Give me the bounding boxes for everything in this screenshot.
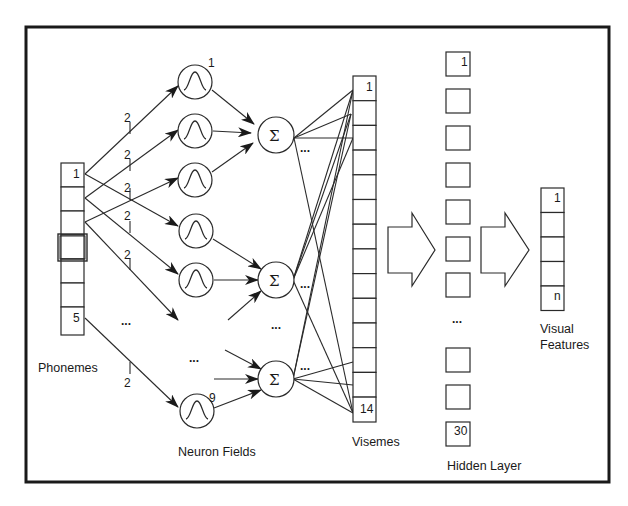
summation-node: Σ	[258, 262, 294, 298]
phoneme-last-index: 5	[73, 311, 80, 325]
weight-label: 2	[124, 111, 131, 125]
weight-label: 2	[124, 181, 131, 195]
visemes-label: Visemes	[352, 435, 400, 449]
neuron-fields-label: Neuron Fields	[178, 445, 256, 459]
visual-features-column: 1 n	[541, 188, 564, 311]
viseme-first-index: 1	[366, 80, 373, 94]
network-diagram: 2 2 2 2 2 2	[0, 0, 628, 506]
phoneme-first-index: 1	[73, 167, 80, 181]
ellipsis: ...	[300, 141, 310, 155]
summation-node: Σ	[258, 361, 294, 397]
weight-label: 2	[124, 376, 131, 390]
gaussian-neuron	[178, 114, 212, 148]
hidden-last-index: 30	[454, 424, 468, 438]
gaussian-neuron	[179, 214, 213, 248]
phoneme-neuron-connections	[85, 86, 178, 407]
weight-label: 2	[124, 209, 131, 223]
hidden-layer-column: 1 30 ...	[446, 52, 470, 446]
viseme-column: 1 14	[353, 76, 376, 422]
neuron-last-index: 9	[209, 391, 216, 405]
neuron-sum-connections	[212, 90, 261, 408]
summation-node: Σ	[258, 117, 294, 153]
ellipsis: ...	[452, 312, 462, 326]
svg-text:Σ: Σ	[269, 371, 280, 389]
ellipsis: ...	[121, 314, 131, 328]
visual-features-label-line2: Features	[540, 338, 589, 352]
ellipsis: ...	[300, 359, 310, 373]
ellipsis: ...	[300, 277, 310, 291]
flow-arrow-icon	[481, 213, 529, 286]
viseme-last-index: 14	[360, 402, 374, 416]
svg-text:Σ: Σ	[269, 272, 280, 290]
flow-arrow-icon	[388, 213, 435, 286]
phonemes-label: Phonemes	[38, 361, 98, 375]
gaussian-neuron	[179, 263, 213, 297]
gaussian-neuron	[178, 65, 212, 99]
ellipsis: ...	[271, 318, 281, 332]
weight-label: 2	[124, 248, 131, 262]
visual-feature-last-index: n	[554, 289, 561, 303]
visual-features-label: Visual	[540, 322, 574, 336]
neuron-first-index: 1	[208, 56, 215, 70]
weight-label: 2	[124, 148, 131, 162]
svg-text:Σ: Σ	[269, 127, 280, 145]
hidden-layer-label: Hidden Layer	[447, 459, 521, 473]
phoneme-input-column: 1 5	[58, 163, 87, 335]
visual-feature-first-index: 1	[554, 191, 561, 205]
neuron-fields: 1 9 ... ...	[121, 56, 216, 428]
gaussian-neuron	[178, 163, 212, 197]
hidden-first-index: 1	[461, 55, 468, 69]
weight-labels: 2 2 2 2 2 2	[124, 111, 131, 390]
ellipsis: ...	[189, 351, 199, 365]
